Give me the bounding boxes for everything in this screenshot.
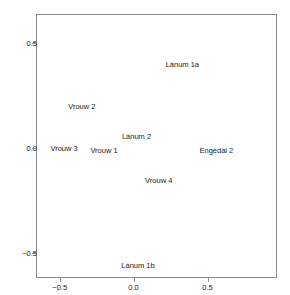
y-axis-tick-mark <box>32 43 36 44</box>
data-point-label: Lánum 1b <box>121 261 154 270</box>
y-axis-tick-mark <box>32 253 36 254</box>
data-point-label: Vrouw 3 <box>50 144 77 153</box>
x-axis-tick-label: −0.5 <box>52 283 67 292</box>
data-point-label: Vrouw 1 <box>90 146 117 155</box>
data-point-label: Vrouw 2 <box>68 102 95 111</box>
data-point-label: Lánum 2 <box>122 131 151 140</box>
x-axis-tick-mark <box>134 278 135 282</box>
data-point-label: Engedal 2 <box>199 146 233 155</box>
x-axis-tick-mark <box>60 278 61 282</box>
x-axis-tick-label: 0.5 <box>202 283 212 292</box>
x-axis-tick-mark <box>208 278 209 282</box>
data-point-label: Lánum 1a <box>166 60 199 69</box>
scatter-plot-figure: −0.50.00.5 0.50.0−0.5 Lánum 1aVrouw 2Lán… <box>0 0 290 295</box>
y-axis-tick-mark <box>32 148 36 149</box>
x-axis-tick-label: 0.0 <box>128 283 138 292</box>
data-point-label: Vrouw 4 <box>145 175 172 184</box>
